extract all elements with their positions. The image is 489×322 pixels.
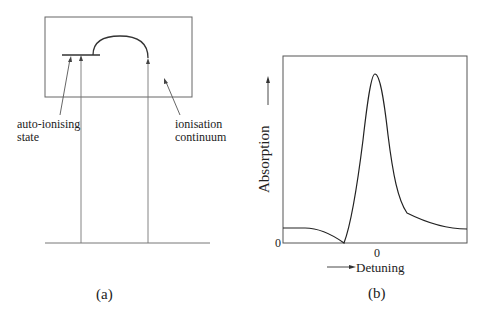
plot-frame: [283, 56, 467, 243]
pointer-auto-ionising-head: [68, 56, 72, 62]
continuum-label: ionisation continuum: [175, 118, 226, 144]
continuum-label-line2: continuum: [175, 131, 226, 144]
fano-curve: [283, 74, 467, 243]
auto-ionising-label-line2: state: [17, 131, 80, 144]
caption-b: (b): [368, 285, 386, 302]
y-axis-label: Absorption: [256, 126, 273, 194]
pointer-continuum: [166, 82, 180, 115]
x-axis-label: Detuning: [356, 261, 404, 274]
figure-canvas: [0, 0, 489, 322]
x-arrow-head: [349, 265, 356, 269]
pointer-auto-ionising: [60, 59, 70, 115]
absorption-plot: [266, 56, 467, 269]
coupling-arc: [93, 36, 148, 58]
x-zero-tick: 0: [374, 247, 380, 260]
y-arrow-head: [266, 76, 270, 83]
arrow-head-right: [146, 58, 150, 64]
y-zero-tick: 0: [275, 237, 281, 250]
arrow-head-left: [79, 55, 83, 61]
pointer-continuum-head: [164, 78, 168, 84]
continuum-box: [45, 17, 192, 97]
auto-ionising-label: auto-ionising state: [17, 118, 80, 144]
caption-a: (a): [96, 286, 113, 303]
